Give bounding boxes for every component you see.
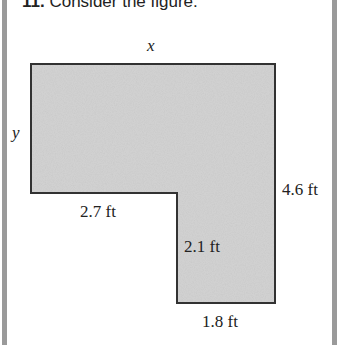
label-left-y: y — [12, 123, 20, 143]
label-notch-vertical: 2.1 ft — [184, 237, 220, 257]
label-right-side: 4.6 ft — [282, 180, 318, 200]
label-bottom: 1.8 ft — [202, 312, 238, 332]
label-notch-horizontal: 2.7 ft — [80, 202, 116, 222]
l-shape — [31, 64, 275, 303]
label-top-x: x — [147, 36, 155, 56]
l-shape-figure — [0, 0, 337, 345]
